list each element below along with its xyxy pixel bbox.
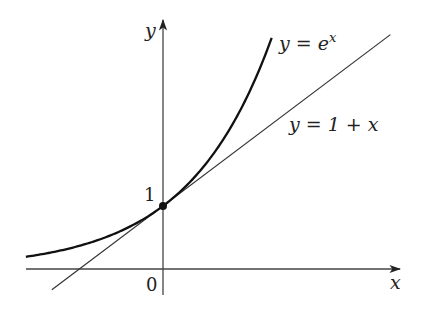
y-axis-label: y bbox=[144, 19, 156, 41]
y-intercept-label: 1 bbox=[144, 184, 155, 205]
origin-label: 0 bbox=[146, 274, 157, 295]
tangent-line-label: y = 1 + x bbox=[288, 113, 379, 135]
exp-tangent-diagram: y x 0 1 y = ex y = 1 + x bbox=[0, 0, 424, 314]
exponential-label-lhs: y = e bbox=[278, 32, 329, 54]
x-axis-label: x bbox=[390, 271, 401, 293]
tangent-line bbox=[52, 35, 391, 290]
exponential-curve bbox=[26, 38, 272, 257]
exponential-label: y = ex bbox=[278, 30, 337, 54]
exponential-label-exponent: x bbox=[329, 30, 337, 45]
tangency-point bbox=[159, 202, 167, 210]
